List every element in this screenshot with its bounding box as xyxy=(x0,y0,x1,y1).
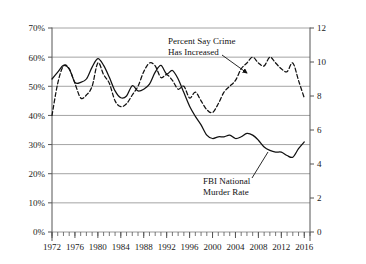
y-tick-label-left: 70% xyxy=(29,23,46,33)
x-tick-label: 2004 xyxy=(226,242,245,252)
y-tick-label-right: 8 xyxy=(317,91,322,101)
x-tick-label: 1984 xyxy=(112,242,131,252)
chart-container: 0%10%20%30%40%50%60%70%02468101219721976… xyxy=(0,0,366,264)
x-tick-label: 1992 xyxy=(158,242,176,252)
x-tick-label: 2016 xyxy=(295,242,314,252)
x-tick-label: 2012 xyxy=(272,242,290,252)
y-tick-label-left: 0% xyxy=(33,227,46,237)
series-line-fbi-murder-rate xyxy=(52,59,304,158)
y-tick-label-left: 30% xyxy=(29,140,46,150)
y-tick-label-right: 10 xyxy=(317,57,327,67)
x-tick-label: 1972 xyxy=(43,242,61,252)
x-tick-label: 2000 xyxy=(204,242,223,252)
line-chart: 0%10%20%30%40%50%60%70%02468101219721976… xyxy=(0,0,366,264)
percent-say-crime-annotation-text: Has Increased xyxy=(168,47,219,57)
percent-say-crime-annotation-leader-line xyxy=(222,55,247,73)
y-tick-label-right: 4 xyxy=(317,159,322,169)
fbi-murder-rate-annotation-text: Murder Rate xyxy=(203,187,249,197)
y-tick-label-right: 12 xyxy=(317,23,326,33)
y-tick-label-right: 6 xyxy=(317,125,322,135)
y-tick-label-right: 2 xyxy=(317,193,322,203)
y-tick-label-left: 40% xyxy=(29,111,46,121)
y-tick-label-left: 20% xyxy=(29,169,46,179)
y-tick-label-left: 10% xyxy=(29,198,46,208)
y-tick-label-right: 0 xyxy=(317,227,322,237)
x-tick-label: 1980 xyxy=(89,242,108,252)
percent-say-crime-annotation-text: Percent Say Crime xyxy=(168,36,235,46)
fbi-murder-rate-annotation-text: FBI National xyxy=(203,176,251,186)
x-tick-label: 1976 xyxy=(66,242,85,252)
y-tick-label-left: 60% xyxy=(29,53,46,63)
x-tick-label: 2008 xyxy=(249,242,268,252)
x-tick-label: 1996 xyxy=(181,242,200,252)
x-tick-label: 1988 xyxy=(135,242,154,252)
y-tick-label-left: 50% xyxy=(29,82,46,92)
